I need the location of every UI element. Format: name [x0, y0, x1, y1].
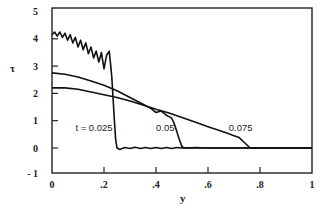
y-tick-label: 4 — [33, 33, 38, 44]
curve-labels: t = 0.0250.050.075 — [75, 122, 252, 133]
y-axis-title: τ — [10, 62, 15, 74]
y-axis-ticks: 543210- 1 — [27, 6, 58, 179]
y-tick-label: 0 — [33, 143, 38, 154]
curve-label: t = 0.025 — [75, 122, 112, 133]
x-tick-label: .6 — [204, 179, 212, 190]
x-tick-label: 0 — [50, 179, 55, 190]
x-axis-ticks: 0.2.4.6.81 — [50, 167, 315, 190]
y-tick-label: 5 — [33, 6, 38, 17]
line-chart: 543210- 1 0.2.4.6.81 t = 0.0250.050.075 … — [0, 0, 320, 208]
x-axis-title: y — [180, 192, 186, 204]
y-tick-label: 3 — [33, 61, 38, 72]
x-tick-label: 1 — [310, 179, 315, 190]
curve-label: 0.075 — [229, 122, 253, 133]
y-tick-label: - 1 — [27, 168, 38, 179]
x-tick-label: .8 — [256, 179, 264, 190]
x-tick-label: .4 — [152, 179, 160, 190]
y-tick-label: 2 — [33, 88, 38, 99]
curve-label: 0.05 — [156, 122, 175, 133]
series-line-1 — [52, 73, 312, 148]
x-tick-label: .2 — [100, 179, 108, 190]
series-line-2 — [52, 88, 312, 148]
y-tick-label: 1 — [33, 115, 38, 126]
